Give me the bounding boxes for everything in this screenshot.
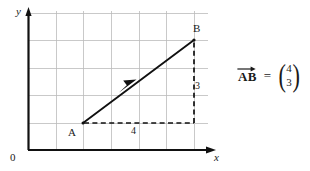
axis-lines [28, 14, 209, 150]
figure-canvas: y x 0 A B 4 3 AB = ( 4 3 ) [0, 0, 310, 171]
vertical-component-label: 3 [195, 81, 200, 91]
vector-equation: AB = ( 4 3 ) [238, 62, 301, 90]
component-x-value: 4 [286, 62, 292, 76]
vector-ab [83, 40, 194, 123]
point-b-marker [192, 38, 195, 41]
component-y-value: 3 [286, 76, 292, 90]
left-paren: ( [278, 63, 285, 88]
right-paren: ) [292, 63, 299, 88]
point-a-label: A [68, 127, 76, 138]
over-arrow-icon [237, 66, 256, 72]
origin-label: 0 [10, 152, 16, 163]
grid-lines [28, 11, 208, 150]
column-vector: ( 4 3 ) [277, 62, 301, 90]
point-a-marker [82, 122, 85, 125]
y-axis-label: y [16, 6, 21, 17]
column-vector-values: 4 3 [286, 62, 292, 90]
equals-sign: = [264, 68, 271, 84]
y-axis-arrowhead [25, 7, 31, 16]
vector-name-with-arrow: AB [238, 66, 257, 85]
x-axis-label: x [214, 152, 219, 163]
horizontal-component-label: 4 [131, 126, 136, 136]
point-b-label: B [193, 23, 200, 34]
